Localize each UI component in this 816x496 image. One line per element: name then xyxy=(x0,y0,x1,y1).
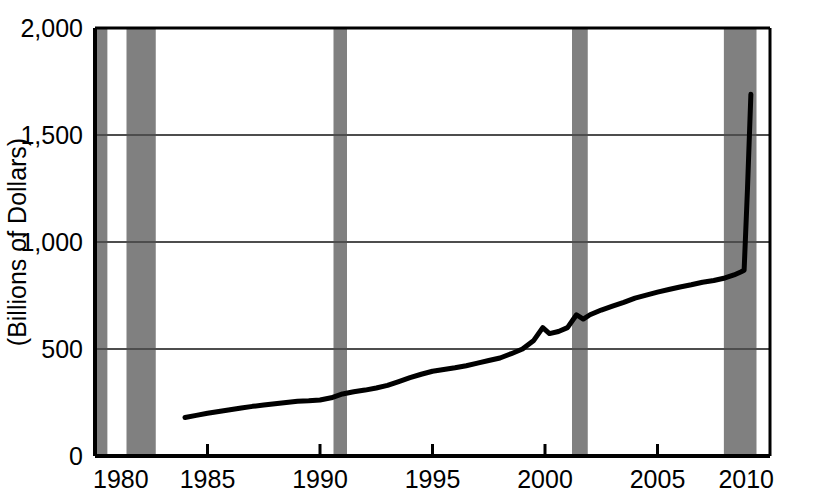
x-tick-label: 1980 xyxy=(93,465,149,493)
y-tick-label: 0 xyxy=(69,442,83,470)
x-tick-label: 1985 xyxy=(180,465,236,493)
x-tick-label: 2000 xyxy=(517,465,573,493)
y-axis-title: (Billions of Dollars) xyxy=(3,138,31,346)
x-tick-label: 1990 xyxy=(292,465,348,493)
line-chart: 05001,0001,5002,000 19801985199019952000… xyxy=(0,0,816,496)
x-tick-label: 1995 xyxy=(405,465,461,493)
y-tick-label: 2,000 xyxy=(20,14,83,42)
chart-container: 05001,0001,5002,000 19801985199019952000… xyxy=(0,0,816,496)
y-tick-label: 500 xyxy=(41,335,83,363)
x-tick-label: 2010 xyxy=(718,465,774,493)
x-tick-label: 2005 xyxy=(630,465,686,493)
x-axis-tick-labels: 1980198519901995200020052010 xyxy=(93,465,774,493)
